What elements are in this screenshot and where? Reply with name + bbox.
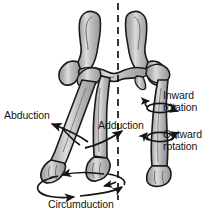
inward-rotation-label: Inward rotation xyxy=(163,90,197,113)
circumduction-label: Circumduction xyxy=(48,199,114,211)
outward-rotation-label-line2: rotation xyxy=(163,141,202,153)
inward-rotation-label-line1: Inward xyxy=(163,90,197,102)
adduction-label: Adduction xyxy=(98,120,144,132)
outward-rotation-label-line1: Outward xyxy=(163,129,202,141)
abduction-label: Abduction xyxy=(4,110,50,122)
outward-rotation-label: Outward rotation xyxy=(163,129,202,152)
inward-rotation-label-line2: rotation xyxy=(163,102,197,114)
right-femur xyxy=(146,64,171,186)
hip-movement-diagram: Abduction Adduction Inward rotation Outw… xyxy=(0,0,212,215)
